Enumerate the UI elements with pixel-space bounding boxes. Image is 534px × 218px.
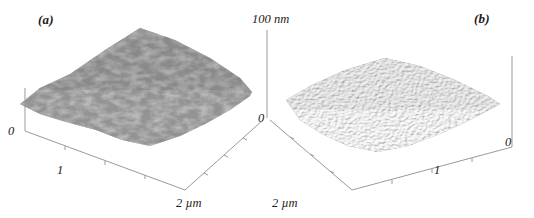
panel-b-origin-label: 0 (505, 135, 511, 150)
panel-b-tick-2um: 2 µm (272, 196, 298, 211)
panel-a-tick-2um: 2 µm (176, 196, 202, 211)
panel-b-surface (280, 50, 508, 162)
afm-plot-canvas (0, 0, 534, 218)
panel-a-label: (a) (38, 12, 54, 28)
panel-b-tick-1: 1 (434, 163, 440, 178)
panel-b-x-axis (352, 147, 512, 190)
panel-b-x-ticks (392, 158, 472, 184)
panel-b-label: (b) (474, 11, 490, 27)
panel-a-surface (16, 20, 260, 156)
z-axis-origin-label: 0 (258, 111, 264, 126)
panel-a-tick-1: 1 (57, 163, 63, 178)
z-axis-max-label: 100 nm (252, 12, 289, 27)
panel-a-x-ticks (65, 146, 145, 179)
panel-a-origin-label: 0 (8, 124, 14, 139)
afm-figure: (a) (b) 100 nm 0 0 0 1 2 µm 1 2 µm (0, 0, 534, 218)
panel-a-y-ticks (204, 138, 247, 175)
